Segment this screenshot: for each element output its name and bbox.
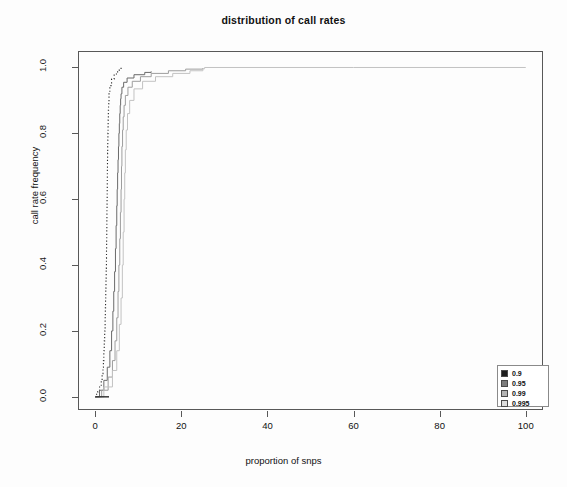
legend-label: 0.995 xyxy=(512,399,530,408)
x-tick-60 xyxy=(354,411,355,417)
x-tick-label-60: 60 xyxy=(334,420,374,431)
x-tick-20 xyxy=(181,411,182,417)
y-tick-0.6 xyxy=(72,199,78,200)
y-axis-label: call rate frequency xyxy=(29,106,40,266)
y-tick-label-0.2: 0.2 xyxy=(37,305,48,353)
x-tick-label-40: 40 xyxy=(247,420,287,431)
legend-item-0.95[interactable]: 0.95 xyxy=(501,379,545,388)
x-tick-label-0: 0 xyxy=(75,420,115,431)
legend-swatch-icon xyxy=(501,390,508,397)
legend-label: 0.9 xyxy=(512,369,522,378)
x-tick-40 xyxy=(267,411,268,417)
y-tick-label-wrap: 0.2 xyxy=(18,324,66,338)
x-tick-label-100: 100 xyxy=(506,420,546,431)
legend-swatch-icon xyxy=(501,400,508,407)
legend-label: 0.99 xyxy=(512,389,526,398)
legend-item-0.9[interactable]: 0.9 xyxy=(501,369,545,378)
y-tick-label-wrap: 0.0 xyxy=(18,390,66,404)
legend-item-0.99[interactable]: 0.99 xyxy=(501,389,545,398)
x-tick-label-20: 20 xyxy=(161,420,201,431)
legend-swatch-icon xyxy=(501,370,508,377)
chart-title: distribution of call rates xyxy=(0,14,567,26)
x-axis-label: proportion of snps xyxy=(0,455,567,466)
series-line-0.9 xyxy=(95,67,121,396)
legend-label: 0.95 xyxy=(512,379,526,388)
y-tick-0.8 xyxy=(72,133,78,134)
y-tick-1.0 xyxy=(72,67,78,68)
x-tick-80 xyxy=(440,411,441,417)
legend: 0.90.950.990.995 xyxy=(497,365,549,407)
y-tick-0.0 xyxy=(72,397,78,398)
y-tick-0.2 xyxy=(72,331,78,332)
legend-item-0.995[interactable]: 0.995 xyxy=(501,399,545,408)
y-tick-0.4 xyxy=(72,265,78,266)
chart-canvas: distribution of call rates 020406080100 … xyxy=(0,0,567,487)
y-tick-label-1.0: 1.0 xyxy=(37,42,48,90)
series-line-0.995 xyxy=(95,67,526,396)
y-tick-label-wrap: 0.8 xyxy=(18,126,66,140)
y-tick-label-wrap: 0.4 xyxy=(18,258,66,272)
y-tick-label-wrap: 1.0 xyxy=(18,60,66,74)
x-tick-100 xyxy=(526,411,527,417)
plot-series-area xyxy=(78,51,543,410)
y-axis-label-wrap: call rate frequency xyxy=(0,180,114,196)
y-tick-label-0.0: 0.0 xyxy=(37,371,48,419)
x-tick-0 xyxy=(95,411,96,417)
legend-swatch-icon xyxy=(501,380,508,387)
x-tick-label-80: 80 xyxy=(420,420,460,431)
